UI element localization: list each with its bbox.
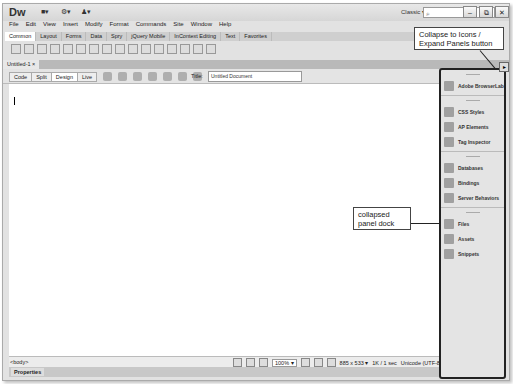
panel-ap-elements[interactable]: AP Elements (441, 119, 504, 134)
desktop-size-icon[interactable] (327, 358, 336, 367)
ap-elements-icon (444, 122, 454, 132)
menu-modify[interactable]: Modify (85, 21, 103, 31)
menu-bar: File Edit View Insert Modify Format Comm… (3, 21, 231, 31)
tablet-size-icon[interactable] (314, 358, 323, 367)
code-view-button[interactable]: Code (9, 72, 32, 82)
preview-browser-icon[interactable] (148, 72, 157, 81)
named-anchor-icon[interactable] (37, 44, 47, 54)
images-icon[interactable] (89, 44, 99, 54)
comment-icon[interactable] (154, 44, 164, 54)
properties-tab[interactable]: Properties (11, 368, 44, 376)
tab-common[interactable]: Common (5, 32, 36, 41)
layout-icon[interactable]: ■▾ (41, 8, 49, 16)
mobile-size-icon[interactable] (301, 358, 310, 367)
server-behaviors-icon (444, 193, 454, 203)
design-view-button[interactable]: Design (51, 72, 78, 82)
select-tool-icon[interactable] (233, 358, 242, 367)
live-code-icon[interactable] (103, 72, 112, 81)
group-grip[interactable] (466, 212, 480, 213)
download-size: 1K / 1 sec (372, 360, 396, 366)
email-link-icon[interactable] (24, 44, 34, 54)
zoom-tool-icon[interactable] (259, 358, 268, 367)
horizontal-rule-icon[interactable] (50, 44, 60, 54)
inspect-icon[interactable] (118, 72, 127, 81)
visual-aids-icon[interactable] (178, 72, 187, 81)
callout-collapse-button: Collapse to Icons / Expand Panels button (414, 27, 504, 50)
menu-file[interactable]: File (9, 21, 19, 31)
menu-commands[interactable]: Commands (136, 21, 167, 31)
script-icon[interactable] (180, 44, 190, 54)
panel-snippets[interactable]: Snippets (441, 246, 504, 261)
bindings-icon (444, 178, 454, 188)
head-icon[interactable] (167, 44, 177, 54)
tab-layout[interactable]: Layout (36, 32, 62, 41)
tab-forms[interactable]: Forms (62, 32, 87, 41)
title-bar: Dw ■▾ ⚙▾ ♟▾ Classic ▾ ⌕ – ⧉ ✕ (3, 4, 509, 21)
tab-data[interactable]: Data (86, 32, 107, 41)
panel-bindings[interactable]: Bindings (441, 175, 504, 190)
panel-tag-inspector[interactable]: Tag Inspector (441, 134, 504, 149)
tag-chooser-icon[interactable] (206, 44, 216, 54)
callout-panel-dock: collapsed panel dock (353, 207, 411, 230)
app-logo: Dw (9, 6, 26, 18)
collapsed-panel-dock: Adobe BrowserLab CSS Styles AP Elements … (439, 68, 506, 379)
server-side-include-icon[interactable] (141, 44, 151, 54)
file-management-icon[interactable] (163, 72, 172, 81)
gear-icon[interactable]: ⚙▾ (61, 8, 71, 16)
group-grip[interactable] (466, 100, 480, 101)
group-grip[interactable] (466, 74, 480, 75)
user-icon[interactable]: ♟▾ (81, 8, 91, 16)
minimize-button[interactable]: – (463, 6, 477, 18)
css-styles-icon (444, 107, 454, 117)
tab-jquery-mobile[interactable]: jQuery Mobile (127, 32, 170, 41)
hyperlink-icon[interactable] (11, 44, 21, 54)
menu-view[interactable]: View (43, 21, 56, 31)
menu-insert[interactable]: Insert (63, 21, 78, 31)
close-tab-icon[interactable]: × (32, 61, 35, 67)
snippets-icon (444, 249, 454, 259)
menu-site[interactable]: Site (173, 21, 183, 31)
insert-div-icon[interactable] (76, 44, 86, 54)
document-toolbar: Code Split Design Live Title: Untitled D… (3, 69, 443, 84)
tab-favorites[interactable]: Favorites (240, 32, 272, 41)
text-cursor (14, 97, 15, 105)
document-tab[interactable]: Untitled-1 × (3, 60, 39, 69)
tab-text[interactable]: Text (221, 32, 240, 41)
templates-icon[interactable] (193, 44, 203, 54)
tag-inspector-icon (444, 137, 454, 147)
insert-toolbar (5, 42, 465, 56)
expand-panels-button[interactable]: ▸ (499, 62, 509, 72)
workspace-switcher[interactable]: Classic ▾ (401, 8, 425, 15)
callout-arrow (411, 223, 439, 224)
title-label: Title: (191, 73, 203, 79)
table-icon[interactable] (63, 44, 73, 54)
multiscreen-icon[interactable] (133, 72, 142, 81)
hand-tool-icon[interactable] (246, 358, 255, 367)
group-grip[interactable] (466, 156, 480, 157)
assets-icon (444, 234, 454, 244)
panel-adobe-browserlab[interactable]: Adobe BrowserLab (441, 78, 504, 93)
tag-selector[interactable]: <body> (10, 359, 28, 365)
menu-window[interactable]: Window (191, 21, 212, 31)
close-button[interactable]: ✕ (495, 6, 509, 18)
panel-assets[interactable]: Assets (441, 231, 504, 246)
files-icon (444, 219, 454, 229)
date-icon[interactable] (128, 44, 138, 54)
tab-incontext-editing[interactable]: InContext Editing (170, 32, 221, 41)
widget-icon[interactable] (115, 44, 125, 54)
menu-help[interactable]: Help (219, 21, 231, 31)
panel-server-behaviors[interactable]: Server Behaviors (441, 190, 504, 205)
panel-databases[interactable]: Databases (441, 160, 504, 175)
media-icon[interactable] (102, 44, 112, 54)
panel-files[interactable]: Files (441, 216, 504, 231)
restore-button[interactable]: ⧉ (479, 6, 493, 18)
live-view-button[interactable]: Live (77, 72, 97, 82)
menu-edit[interactable]: Edit (26, 21, 36, 31)
zoom-select[interactable]: 100% ▾ (272, 359, 297, 367)
document-title-input[interactable]: Untitled Document (208, 71, 302, 82)
tab-spry[interactable]: Spry (107, 32, 127, 41)
menu-format[interactable]: Format (110, 21, 129, 31)
window-size[interactable]: 885 x 533 ▾ (340, 360, 369, 366)
split-view-button[interactable]: Split (31, 72, 52, 82)
panel-css-styles[interactable]: CSS Styles (441, 104, 504, 119)
